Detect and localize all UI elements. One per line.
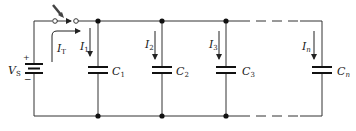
current-label: I2 [144, 38, 154, 52]
branch-3: I3 C3 [208, 31, 255, 79]
total-current-label: IT [56, 42, 66, 56]
branch-1: I1 C1 [79, 28, 125, 79]
circuit-diagram: + − VS IT I1 C1 I2 C2 I3 C3 [0, 0, 356, 131]
current-label: In [301, 40, 311, 54]
capacitor-label: C1 [112, 65, 125, 79]
switch [53, 5, 79, 23]
capacitor-label: C2 [176, 65, 189, 79]
battery-plus-sign: + [23, 53, 30, 62]
circuit-svg: + − VS IT I1 C1 I2 C2 I3 C3 [0, 0, 356, 131]
source-voltage-label: VS [8, 64, 21, 78]
battery-icon [25, 64, 43, 73]
branch-n: In Cn [301, 31, 350, 79]
switch-terminal-right [74, 19, 79, 24]
battery-minus-sign: − [24, 74, 32, 84]
current-label: I3 [208, 38, 218, 52]
switch-terminal-left [53, 19, 58, 24]
capacitor-label: C3 [242, 65, 255, 79]
current-label: I1 [79, 40, 89, 54]
capacitor-label: Cn [337, 65, 350, 79]
branch-2: I2 C2 [144, 31, 189, 79]
